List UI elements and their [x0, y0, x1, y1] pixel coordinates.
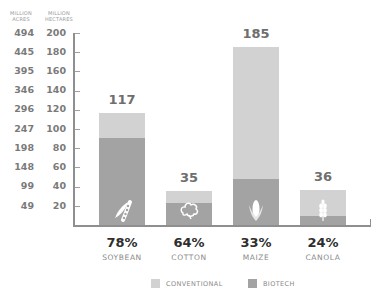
hectares-tick: 120 [38, 104, 66, 114]
y-tick-mark [75, 110, 80, 111]
crop-label: CANOLA [288, 253, 358, 262]
acres-tick: 49 [6, 201, 34, 211]
acres-tick: 148 [6, 162, 34, 172]
hectares-tick: 180 [38, 47, 66, 57]
y-tick-mark [75, 148, 80, 149]
bar-total-label: 35 [166, 170, 212, 185]
legend-swatch-conventional [151, 279, 160, 288]
y-tick-mark [75, 71, 80, 72]
biotech-percent-label: 33% [221, 235, 291, 250]
bar-total-label: 117 [99, 92, 145, 107]
y-tick-mark [75, 206, 80, 207]
hectares-tick: 60 [38, 162, 66, 172]
acres-tick: 445 [6, 47, 34, 57]
y-tick-mark [75, 91, 80, 92]
crop-label: MAIZE [221, 253, 291, 262]
hectares-tick: 40 [38, 181, 66, 191]
acres-tick: 346 [6, 85, 34, 95]
y-tick-mark [75, 187, 80, 188]
hectares-tick: 160 [38, 66, 66, 76]
soybean-icon [99, 197, 145, 223]
acres-tick: 198 [6, 143, 34, 153]
bar-conventional-segment [233, 47, 279, 179]
canola-icon [300, 197, 346, 223]
biotech-percent-label: 78% [87, 235, 157, 250]
acres-tick: 296 [6, 104, 34, 114]
acres-tick: 99 [6, 181, 34, 191]
y-axis-line [73, 33, 75, 227]
crop-label: COTTON [154, 253, 224, 262]
hectares-tick: 200 [38, 28, 66, 38]
maize-icon [233, 197, 279, 223]
legend-label-conventional: CONVENTIONAL [166, 280, 223, 288]
legend-label-biotech: BIOTECH [263, 280, 295, 288]
crop-label: SOYBEAN [87, 253, 157, 262]
acres-tick: 247 [6, 124, 34, 134]
y-tick-mark [75, 33, 80, 34]
hectares-axis-header: MILLION HECTARES [42, 10, 76, 22]
acres-tick: 395 [6, 66, 34, 76]
bar-total-label: 36 [300, 169, 346, 184]
hectares-tick: 140 [38, 85, 66, 95]
x-axis-end-tick [370, 219, 371, 226]
acres-axis-header: MILLION ACRES [6, 10, 36, 22]
hectares-tick: 100 [38, 124, 66, 134]
bar-total-label: 185 [233, 26, 279, 41]
acres-tick: 494 [6, 28, 34, 38]
y-tick-mark [75, 167, 80, 168]
biotech-percent-label: 24% [288, 235, 358, 250]
hectares-tick: 20 [38, 201, 66, 211]
hectares-tick: 80 [38, 143, 66, 153]
x-axis-line [73, 225, 371, 227]
biotech-percent-label: 64% [154, 235, 224, 250]
cotton-icon [166, 197, 212, 223]
legend-swatch-biotech [248, 279, 257, 288]
y-tick-mark [75, 129, 80, 130]
y-tick-mark [75, 52, 80, 53]
bar-conventional-segment [99, 113, 145, 138]
